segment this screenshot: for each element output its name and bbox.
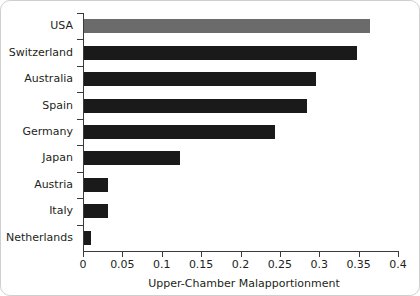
bar: [84, 46, 357, 60]
y-axis-tick: [77, 92, 83, 93]
bar: [84, 204, 108, 218]
category-label: Japan: [1, 152, 73, 164]
category-label: Netherlands: [1, 232, 73, 244]
bar: [84, 72, 316, 86]
bar: [84, 19, 370, 33]
category-label: Australia: [1, 73, 73, 85]
y-axis-tick: [77, 172, 83, 173]
bar: [84, 178, 108, 192]
category-label: Switzerland: [1, 47, 73, 59]
y-axis-tick: [77, 225, 83, 226]
x-axis-tick-label: 0: [80, 259, 87, 271]
bar: [84, 151, 180, 165]
x-axis-tick-label: 0.35: [346, 259, 371, 271]
category-label: Austria: [1, 179, 73, 191]
category-label: USA: [1, 20, 73, 32]
x-axis-tick-label: 0.2: [232, 259, 250, 271]
x-axis-tick: [398, 252, 399, 257]
plot-area: USASwitzerlandAustraliaSpainGermanyJapan…: [1, 1, 420, 296]
y-axis-tick: [77, 39, 83, 40]
x-axis-tick-label: 0.25: [268, 259, 293, 271]
y-axis-tick: [77, 145, 83, 146]
x-axis-tick: [241, 252, 242, 257]
x-axis-tick: [162, 252, 163, 257]
bar: [84, 231, 91, 245]
y-axis-tick: [77, 198, 83, 199]
chart-figure: USASwitzerlandAustraliaSpainGermanyJapan…: [0, 0, 420, 296]
x-axis-tick-label: 0.15: [189, 259, 214, 271]
bar: [84, 99, 307, 113]
bar: [84, 125, 275, 139]
x-axis-tick-label: 0.3: [311, 259, 329, 271]
x-axis-tick-label: 0.1: [153, 259, 171, 271]
x-axis-tick-label: 0.4: [389, 259, 407, 271]
category-label: Germany: [1, 126, 73, 138]
x-axis-tick: [319, 252, 320, 257]
category-label: Spain: [1, 100, 73, 112]
x-axis-tick: [83, 252, 84, 257]
y-axis-tick: [77, 119, 83, 120]
x-axis-tick: [359, 252, 360, 257]
x-axis-tick-label: 0.05: [110, 259, 135, 271]
x-axis-tick: [122, 252, 123, 257]
x-axis-tick: [280, 252, 281, 257]
y-axis-tick: [77, 13, 83, 14]
y-axis-tick: [77, 66, 83, 67]
x-axis-title: Upper-Chamber Malapportionment: [1, 277, 420, 290]
x-axis-tick: [201, 252, 202, 257]
category-label: Italy: [1, 205, 73, 217]
